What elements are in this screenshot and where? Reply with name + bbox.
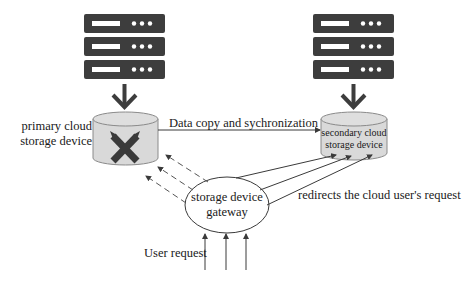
server-rack-icon-secondary (313, 14, 394, 79)
sync-label: Data copy and sychronization (169, 116, 318, 131)
primary-storage-label: primary cloud storage device (20, 119, 92, 149)
primary-storage-label-line1: primary cloud (20, 119, 92, 134)
arrow-down-icon-secondary (342, 84, 365, 107)
user-request-label: User request (144, 246, 207, 261)
server-rack-icon-primary (84, 14, 165, 79)
secondary-storage-label: secondary cloud storage device (321, 127, 387, 151)
arrow-down-icon-primary (113, 84, 136, 107)
primary-storage-label-line2: storage device (20, 134, 92, 149)
gateway-label: storage device gateway (185, 190, 269, 220)
gateway-label-line1: storage device (185, 190, 269, 205)
redirect-label: redirects the cloud user's request (298, 188, 461, 203)
gateway-label-line2: gateway (185, 205, 269, 220)
storage-failover-diagram: primary cloud storage device secondary c… (0, 0, 472, 284)
secondary-storage-label-line1: secondary cloud (321, 127, 387, 139)
primary-storage-cylinder (93, 112, 158, 165)
secondary-storage-label-line2: storage device (321, 139, 387, 151)
user-request-arrows (205, 234, 246, 270)
